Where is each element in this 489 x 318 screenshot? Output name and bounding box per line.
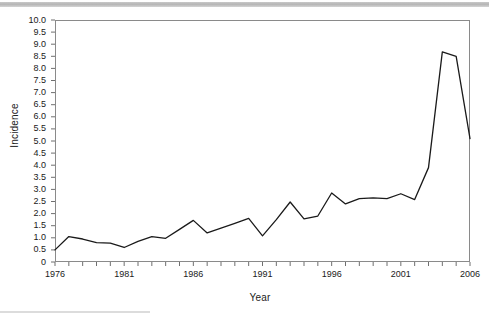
y-tick-label: 3.5 <box>14 173 46 182</box>
x-tick-label: 2006 <box>450 270 489 279</box>
y-tick-label: 1.0 <box>14 233 46 242</box>
figure-page: 00.51.01.52.02.53.03.54.04.55.05.56.06.5… <box>0 0 489 318</box>
y-tick-label: 3.0 <box>14 185 46 194</box>
y-tick-label: 8.5 <box>14 52 46 61</box>
x-tick-label: 1976 <box>35 270 75 279</box>
incidence-line-series <box>55 52 470 250</box>
y-tick-label: 10.0 <box>14 16 46 25</box>
x-tick-label: 2001 <box>381 270 421 279</box>
line-chart-figure: 00.51.01.52.02.53.03.54.04.55.05.56.06.5… <box>0 0 489 318</box>
y-axis-ticks <box>51 20 55 262</box>
y-tick-label: 2.5 <box>14 197 46 206</box>
y-tick-label: 9.0 <box>14 40 46 49</box>
x-axis-title: Year <box>180 292 340 303</box>
x-axis-ticks <box>55 262 470 266</box>
y-tick-label: 0 <box>14 258 46 267</box>
x-tick-label: 1996 <box>312 270 352 279</box>
y-tick-label: 8.0 <box>14 64 46 73</box>
y-tick-label: 9.5 <box>14 28 46 37</box>
y-axis-title: Incidence <box>9 81 20 171</box>
x-tick-label: 1986 <box>173 270 213 279</box>
x-tick-label: 1981 <box>104 270 144 279</box>
y-tick-label: 2.0 <box>14 209 46 218</box>
y-tick-label: 0.5 <box>14 245 46 254</box>
x-tick-label: 1991 <box>243 270 283 279</box>
y-tick-label: 1.5 <box>14 221 46 230</box>
